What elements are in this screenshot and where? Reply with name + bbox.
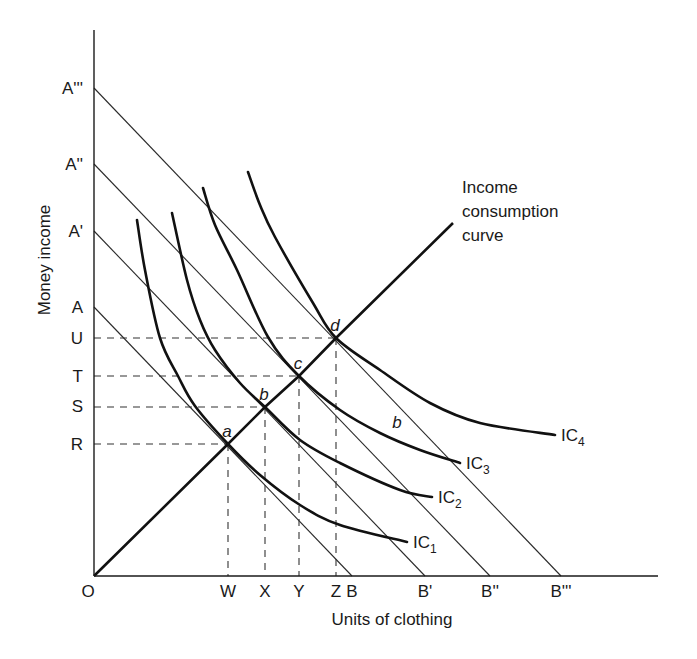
point-label-d: d <box>330 316 340 335</box>
x-tick-bppp: B''' <box>550 582 571 601</box>
ic-label-1: IC1 <box>413 533 437 556</box>
point-label-c: c <box>294 354 303 373</box>
y-tick-a: A <box>72 298 84 317</box>
y-tick-u: U <box>71 329 83 348</box>
tick-labels: A'''A''A'AUTSRWXYZBB'B''B''' <box>62 79 572 601</box>
indifference-curves: IC1IC2IC3IC4 <box>137 172 585 556</box>
y-tick-ap: A' <box>68 222 83 241</box>
icc-label-line-2: consumption <box>462 202 558 221</box>
y-tick-t: T <box>73 367 83 386</box>
ic-label-2: IC2 <box>438 488 462 511</box>
y-tick-s: S <box>72 397 83 416</box>
y-tick-r: R <box>71 435 83 454</box>
point-label-a: a <box>222 422 231 441</box>
x-tick-x: X <box>259 582 270 601</box>
ic-label-3: IC3 <box>466 454 490 477</box>
origin-label: O <box>81 582 94 601</box>
icc-label-line-1: Income <box>462 178 518 197</box>
x-tick-bpp: B'' <box>481 582 499 601</box>
budget-lines <box>94 88 561 576</box>
x-tick-z: Z <box>331 582 341 601</box>
budget-line-apppbppp <box>94 88 561 576</box>
ic-label-subscript: 1 <box>430 542 437 556</box>
icc-label-line-3: curve <box>462 226 504 245</box>
x-tick-bp: B' <box>418 582 433 601</box>
x-tick-b: B <box>346 582 357 601</box>
annotation-0: b <box>392 413 401 432</box>
ic-label-subscript: 2 <box>455 497 462 511</box>
income-consumption-diagram: IC1IC2IC3IC4 O Units of clothing Money i… <box>0 0 697 659</box>
budget-line-ab <box>94 307 352 576</box>
y-axis-title: Money income <box>35 205 54 316</box>
ic-label-subscript: 4 <box>578 435 585 449</box>
x-axis-title: Units of clothing <box>332 610 453 629</box>
y-tick-appp: A''' <box>62 79 83 98</box>
x-tick-w: W <box>220 582 236 601</box>
point-label-b: b <box>259 385 268 404</box>
x-tick-y: Y <box>293 582 304 601</box>
ic-label-4: IC4 <box>561 426 585 449</box>
labels: O Units of clothing Money income Income … <box>35 178 558 629</box>
y-tick-app: A'' <box>65 155 83 174</box>
ic-label-subscript: 3 <box>483 463 490 477</box>
